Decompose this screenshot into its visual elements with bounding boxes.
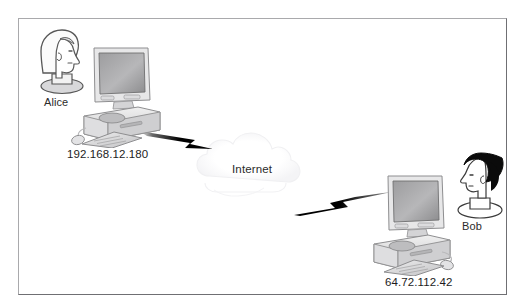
- node-alice[interactable]: Alice: [34, 26, 184, 176]
- person-head-dark-hair-facing-left-icon: [448, 148, 510, 220]
- node-alice-label: Alice: [44, 96, 68, 108]
- node-bob-ip-address: 64.72.112.42: [385, 276, 453, 288]
- network-diagram: Alice: [0, 0, 527, 308]
- node-bob-label: Bob: [462, 220, 482, 232]
- node-alice-ip-address: 192.168.12.180: [67, 148, 148, 160]
- node-bob[interactable]: Bob 64.72.112.42: [362, 148, 514, 298]
- desktop-computer-icon: [68, 44, 164, 148]
- desktop-computer-icon: [362, 172, 460, 276]
- internet-cloud-label: Internet: [232, 163, 272, 175]
